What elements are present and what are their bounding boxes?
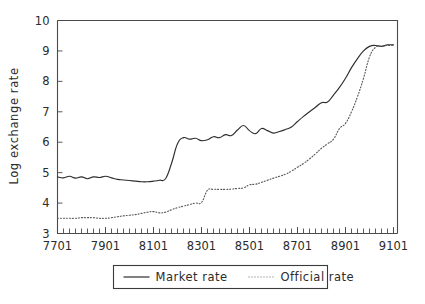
y-tick-label: 8 <box>42 74 49 88</box>
legend-label-official-rate: Official rate <box>281 270 355 284</box>
y-tick-label: 5 <box>42 166 49 180</box>
y-axis-ticks: 345678910 <box>35 14 63 241</box>
y-tick-label: 6 <box>42 135 49 149</box>
x-axis-ticks: 77017901810183018501870189019101 <box>43 227 408 253</box>
x-tick-label: 8301 <box>187 239 216 253</box>
y-tick-label: 7 <box>42 105 49 119</box>
axes-group <box>58 21 398 234</box>
x-tick-label: 8701 <box>283 239 312 253</box>
chart-canvas: 345678910 770179018101830185018701890191… <box>0 0 425 304</box>
series-line-official-rate <box>58 45 394 218</box>
legend-label-market-rate: Market rate <box>156 270 228 284</box>
x-tick-label: 8501 <box>235 239 264 253</box>
exchange-rate-chart-figure: 345678910 770179018101830185018701890191… <box>0 0 425 304</box>
data-series-group <box>58 45 394 219</box>
y-tick-label: 9 <box>42 44 49 58</box>
x-tick-label: 8901 <box>331 239 360 253</box>
chart-legend: Market rateOfficial rate <box>114 266 355 289</box>
series-line-market-rate <box>58 45 394 182</box>
y-tick-label: 4 <box>42 196 49 210</box>
y-axis-title: Log exchange rate <box>7 67 21 184</box>
x-tick-label: 7901 <box>91 239 120 253</box>
x-tick-label: 8101 <box>139 239 168 253</box>
x-tick-label: 9101 <box>379 239 408 253</box>
x-tick-label: 7701 <box>43 239 72 253</box>
y-tick-label: 10 <box>35 14 50 28</box>
